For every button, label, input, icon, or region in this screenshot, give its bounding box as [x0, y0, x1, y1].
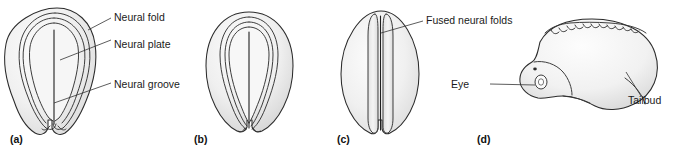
- label-neural-fold: Neural fold: [114, 11, 165, 23]
- panel-letter-a: (a): [10, 133, 23, 145]
- figure-canvas: Neural fold Neural plate Neural groove (…: [0, 0, 677, 158]
- panel-letter-c: (c): [337, 133, 350, 145]
- label-fused-neural-folds: Fused neural folds: [426, 14, 512, 26]
- label-neural-plate: Neural plate: [114, 38, 171, 50]
- panel-b-drawing: [206, 12, 293, 132]
- panel-letter-d: (d): [477, 133, 490, 145]
- panel-a-drawing: [5, 8, 111, 134]
- label-eye: Eye: [451, 78, 469, 90]
- panel-letter-b: (b): [194, 133, 207, 145]
- nostril-mark: [533, 68, 537, 71]
- eye-lens: [538, 79, 543, 85]
- leader-neural-fold: [88, 18, 111, 30]
- label-neural-groove: Neural groove: [114, 78, 180, 90]
- embryo-development-figure: Neural fold Neural plate Neural groove (…: [0, 0, 677, 158]
- panel-c-drawing: [341, 11, 423, 134]
- label-tailbud: Tailbud: [628, 94, 661, 106]
